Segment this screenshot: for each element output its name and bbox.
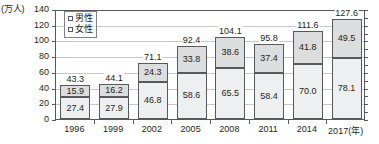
bar-value-male: 16.2 — [105, 86, 123, 95]
axis-minor-tick-mark — [364, 18, 368, 19]
bar-group[interactable]: 58.633.892.4 — [177, 46, 207, 119]
bar-segment-male[interactable]: 24.3 — [138, 63, 168, 82]
axis-tick-mark — [364, 120, 368, 121]
x-axis-label-2011: 2011 — [258, 124, 277, 134]
bar-total-label: 111.6 — [296, 20, 319, 30]
axis-tick-mark — [364, 104, 368, 105]
bar-group[interactable]: 27.415.943.3 — [60, 85, 90, 119]
axis-minor-tick-mark — [364, 34, 368, 35]
bar-value-male: 37.4 — [260, 54, 278, 63]
x-axis-tick-mark — [326, 120, 327, 124]
bar-segment-female[interactable]: 27.4 — [60, 97, 90, 119]
legend: 男性 女性 — [64, 11, 97, 38]
plot-area: 27.415.943.327.916.244.146.824.371.158.6… — [55, 10, 365, 120]
axis-tick-mark — [364, 10, 368, 11]
bar-segment-female[interactable]: 78.1 — [332, 58, 362, 119]
female-swatch-icon — [68, 27, 73, 32]
male-swatch-icon — [68, 16, 73, 21]
bar-segment-male[interactable]: 33.8 — [177, 46, 207, 73]
legend-label-female: 女性 — [75, 24, 93, 35]
bar-total-label: 95.8 — [259, 33, 279, 43]
y-axis-tick-60: 60 — [39, 67, 49, 77]
bar-value-female: 27.4 — [67, 104, 85, 113]
y-axis-tick-40: 40 — [39, 83, 49, 93]
y-axis-tick-labels: 020406080100120140 — [0, 10, 52, 120]
legend-label-male: 男性 — [75, 13, 93, 24]
bar-value-female: 78.1 — [338, 84, 356, 93]
axis-tick-mark — [364, 41, 368, 42]
bar-total-label: 71.1 — [143, 52, 163, 62]
bar-segment-female[interactable]: 58.6 — [177, 73, 207, 119]
axis-minor-tick-mark — [364, 49, 368, 50]
bar-total-label: 104.1 — [218, 26, 243, 36]
axis-tick-mark — [52, 120, 56, 121]
bar-group[interactable]: 78.149.5127.6 — [332, 19, 362, 119]
bar-segment-male[interactable]: 49.5 — [332, 19, 362, 58]
x-axis-label-2017: 2017(年) — [328, 124, 363, 137]
bar-segment-female[interactable]: 70.0 — [293, 64, 323, 119]
bar-value-female: 58.4 — [260, 92, 278, 101]
x-axis-tick-mark — [210, 120, 211, 124]
x-axis-tick-mark — [249, 120, 250, 124]
x-axis-tick-mark — [133, 120, 134, 124]
x-axis-label-1999: 1999 — [103, 124, 123, 134]
y-axis-tick-100: 100 — [34, 35, 49, 45]
bar-total-label: 92.4 — [182, 35, 202, 45]
bar-value-male: 24.3 — [144, 68, 162, 77]
bar-series-container: 27.415.943.327.916.244.146.824.371.158.6… — [56, 10, 364, 119]
axis-minor-tick-mark — [364, 65, 368, 66]
bar-segment-female[interactable]: 46.8 — [138, 82, 168, 119]
bar-value-female: 65.5 — [222, 89, 240, 98]
axis-minor-tick-mark — [364, 96, 368, 97]
bar-segment-female[interactable]: 27.9 — [99, 97, 129, 119]
bar-value-male: 33.8 — [183, 55, 201, 64]
bar-segment-male[interactable]: 16.2 — [99, 84, 129, 97]
axis-tick-mark — [364, 57, 368, 58]
axis-tick-mark — [364, 26, 368, 27]
bar-segment-female[interactable]: 58.4 — [254, 73, 284, 119]
y-axis-tick-0: 0 — [44, 114, 49, 124]
bar-segment-male[interactable]: 15.9 — [60, 85, 90, 97]
bar-total-label: 44.1 — [104, 73, 124, 83]
axis-tick-mark — [364, 73, 368, 74]
bar-segment-female[interactable]: 65.5 — [215, 68, 245, 119]
y-axis-tick-120: 120 — [34, 20, 49, 30]
y-axis-tick-140: 140 — [34, 4, 49, 14]
x-axis-label-2005: 2005 — [181, 124, 201, 134]
bar-group[interactable]: 27.916.244.1 — [99, 84, 129, 119]
bar-segment-male[interactable]: 41.8 — [293, 31, 323, 64]
stacked-bar-chart: (万人) 020406080100120140 27.415.943.327.9… — [0, 0, 379, 144]
axis-minor-tick-mark — [364, 112, 368, 113]
bar-value-male: 41.8 — [299, 43, 317, 52]
bar-value-female: 58.6 — [183, 91, 201, 100]
bar-total-label: 43.3 — [66, 74, 86, 84]
x-axis-tick-mark — [288, 120, 289, 124]
y-axis-tick-80: 80 — [39, 51, 49, 61]
x-axis-tick-mark — [171, 120, 172, 124]
legend-item-female[interactable]: 女性 — [68, 24, 93, 35]
bar-value-male: 15.9 — [67, 87, 85, 96]
bar-value-female: 70.0 — [299, 87, 317, 96]
bar-group[interactable]: 70.041.8111.6 — [293, 31, 323, 119]
axis-tick-mark — [364, 89, 368, 90]
bar-value-female: 27.9 — [105, 104, 123, 113]
bar-group[interactable]: 46.824.371.1 — [138, 63, 168, 119]
bar-value-female: 46.8 — [144, 96, 162, 105]
x-axis-label-1996: 1996 — [64, 124, 84, 134]
x-axis-tick-labels: 19961999200220052008201120142017(年) — [55, 124, 365, 142]
x-axis-tick-mark — [94, 120, 95, 124]
y-axis-tick-20: 20 — [39, 98, 49, 108]
bar-group[interactable]: 58.437.495.8 — [254, 44, 284, 119]
bar-value-male: 38.6 — [222, 48, 240, 57]
legend-item-male[interactable]: 男性 — [68, 13, 93, 24]
bar-total-label: 127.6 — [334, 8, 359, 18]
bar-group[interactable]: 65.538.6104.1 — [215, 37, 245, 119]
x-axis-label-2014: 2014 — [297, 124, 317, 134]
x-axis-label-2008: 2008 — [219, 124, 239, 134]
bar-segment-male[interactable]: 37.4 — [254, 44, 284, 73]
x-axis-label-2002: 2002 — [142, 124, 162, 134]
bar-segment-male[interactable]: 38.6 — [215, 37, 245, 67]
axis-minor-tick-mark — [364, 81, 368, 82]
bar-value-male: 49.5 — [338, 34, 356, 43]
